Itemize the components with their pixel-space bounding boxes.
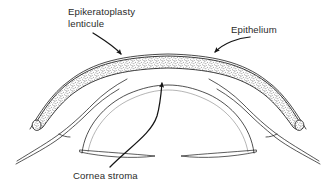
label-epikeratoplasty-lenticule: Epikeratoplasty lenticule (68, 6, 135, 30)
label-lenticule-line1: Epikeratoplasty (68, 6, 135, 18)
epikeratoplasty-diagram: Epikeratoplasty lenticule Epithelium Cor… (0, 0, 336, 192)
label-epithelium: Epithelium (231, 24, 277, 36)
cornea-stroma-dome (82, 85, 254, 153)
epithelium-leader-arrow (215, 37, 250, 52)
label-cornea-stroma: Cornea stroma (73, 170, 138, 182)
epikeratoplasty-lenticule-band (20, 48, 316, 144)
label-lenticule-line2: lenticule (68, 18, 135, 30)
diagram-canvas (0, 0, 336, 192)
lenticule-leader-arrow (93, 33, 121, 54)
corneal-lamella-slivers (80, 150, 256, 157)
